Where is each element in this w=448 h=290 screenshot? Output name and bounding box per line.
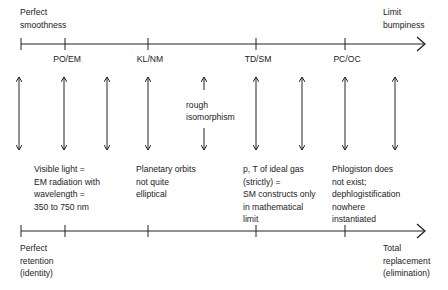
top-left-label: Perfect smoothness: [20, 6, 66, 31]
tick-label-td-sm: TD/SM: [245, 54, 272, 65]
bottom-left-label: Perfect retention (identity): [20, 242, 53, 280]
rough-isomorphism-label: rough isomorphism: [186, 99, 235, 123]
example-kl-nm: Planetary orbits not quite elliptical: [136, 163, 196, 201]
tick-label-kl-nm: KL/NM: [137, 54, 163, 65]
bottom-right-label: Total replacement (elimination): [383, 242, 430, 280]
diagram-lines: [0, 0, 448, 290]
top-right-label: Limit bumpiness: [383, 6, 425, 31]
tick-label-po-em: PO/EM: [53, 54, 81, 65]
example-pc-oc: Phlogiston does not exist; dephlogistifi…: [332, 163, 400, 226]
bottom-axis: [21, 224, 425, 238]
example-td-sm: p, T of ideal gas (strictly) = SM constr…: [243, 163, 316, 226]
top-axis: [21, 37, 425, 51]
example-po-em: Visible light = EM radiation with wavele…: [34, 163, 100, 213]
tick-label-pc-oc: PC/OC: [333, 54, 360, 65]
